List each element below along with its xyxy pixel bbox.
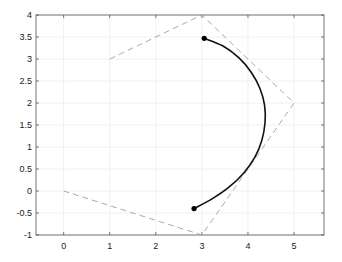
y-tick-label: 1 [27,142,32,152]
x-tick-label: 5 [292,241,297,251]
endpoint-marker [202,36,207,41]
grid-lines [36,15,324,235]
y-tick-label: 2.5 [19,76,32,86]
y-tick-label: 4 [27,10,32,20]
y-tick-label: 3.5 [19,32,32,42]
chart: 012345 -1-0.500.511.522.533.54 [0,0,342,262]
y-tick-label: 0.5 [19,164,32,174]
endpoint-marker [191,206,196,211]
x-tick-label: 4 [245,241,250,251]
y-tick-label: -1 [24,230,32,240]
y-axis-tick-labels: -1-0.500.511.522.533.54 [16,10,32,240]
y-tick-label: 3 [27,54,32,64]
y-tick-label: 2 [27,98,32,108]
x-tick-label: 0 [61,241,66,251]
y-tick-label: 1.5 [19,120,32,130]
y-tick-label: -0.5 [16,208,32,218]
x-tick-label: 1 [107,241,112,251]
x-tick-label: 2 [153,241,158,251]
y-tick-label: 0 [27,186,32,196]
x-axis-tick-labels: 012345 [61,241,296,251]
x-tick-label: 3 [199,241,204,251]
arc-curve [194,38,265,208]
